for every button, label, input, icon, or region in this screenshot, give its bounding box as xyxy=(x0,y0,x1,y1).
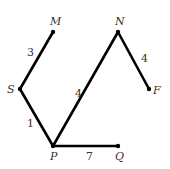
weighted-graph-diagram: 31447 MNSFPQ xyxy=(0,0,170,169)
vertex-m-dot xyxy=(51,30,55,34)
vertex-label-p: P xyxy=(49,150,58,163)
edge-weight-p-q: 7 xyxy=(86,150,93,163)
vertex-p-dot xyxy=(51,144,55,148)
edge-m-s xyxy=(20,32,53,89)
edge-weight-m-s: 3 xyxy=(27,46,34,59)
vertex-label-m: M xyxy=(49,15,62,28)
vertex-labels-group: MNSFPQ xyxy=(7,15,161,163)
vertex-label-f: F xyxy=(152,84,161,97)
vertex-n-dot xyxy=(116,30,120,34)
edge-weight-p-n: 4 xyxy=(75,87,82,100)
edge-p-n xyxy=(53,32,118,146)
vertex-s-dot xyxy=(18,87,22,91)
vertex-label-n: N xyxy=(114,15,125,28)
vertex-label-q: Q xyxy=(115,150,124,163)
edge-weight-n-f: 4 xyxy=(141,52,148,65)
edge-s-p xyxy=(20,89,53,146)
edges-group xyxy=(20,32,149,146)
vertex-f-dot xyxy=(147,87,151,91)
edge-weight-s-p: 1 xyxy=(27,117,34,130)
vertex-q-dot xyxy=(116,144,120,148)
vertex-label-s: S xyxy=(7,83,15,96)
